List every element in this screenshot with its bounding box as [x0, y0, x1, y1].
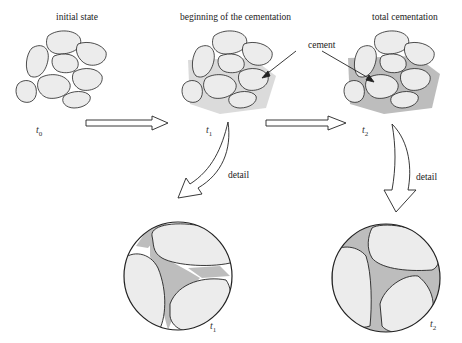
grain-cluster-beginning — [182, 31, 276, 114]
arrow-t0-t1 — [86, 116, 168, 130]
label-cement: cement — [308, 40, 335, 50]
detail-time-t2: t2 — [430, 318, 436, 332]
detail-time-t1: t1 — [210, 320, 216, 334]
arrow-t1-t2 — [266, 116, 346, 130]
time-label-t1: t1 — [206, 124, 212, 138]
label-beginning-cementation: beginning of the cementation — [180, 12, 291, 22]
label-detail-1: detail — [228, 170, 249, 180]
label-total-cementation: total cementation — [372, 12, 438, 22]
grain-cluster-initial — [16, 31, 106, 108]
detail-circle-t1 — [120, 220, 240, 340]
detail-circle-t2 — [330, 222, 442, 334]
label-detail-2: detail — [416, 172, 437, 182]
detail-arrow-1 — [178, 122, 229, 198]
detail-arrow-2 — [384, 124, 416, 212]
time-label-t0: t0 — [36, 124, 42, 138]
time-label-t2: t2 — [362, 124, 368, 138]
label-initial-state: initial state — [56, 12, 98, 22]
